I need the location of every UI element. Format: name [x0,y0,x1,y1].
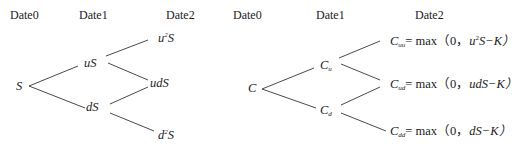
edge-s-us [29,66,78,86]
header-date1: Date1 [316,9,345,21]
header-date0: Date0 [10,9,39,21]
node-s: S [16,80,22,93]
node-cdd: Cdd= max（0，dS−K） [390,125,512,139]
node-uds: udS [150,77,169,90]
node-us: uS [84,57,97,70]
node-cud: Cud= max（0，udS−K） [390,78,518,92]
edge-cu-cuu [339,41,380,58]
node-cd: Cd [320,104,332,118]
edge-cu-cud [341,64,380,80]
edge-c-cd [262,89,316,108]
node-c: C [248,82,256,95]
node-cu: Cu [320,59,332,73]
edge-ds-uds [110,87,148,104]
header-date2: Date2 [415,9,444,21]
header-date2: Date2 [166,9,195,21]
node-cuu: Cuu= max（0，u2S−K） [390,35,515,49]
header-date0: Date0 [233,9,262,21]
node-uus: u2S [158,32,174,45]
edge-ds-dds [110,113,154,131]
edge-s-ds [29,86,85,108]
edge-us-uus [106,40,148,56]
node-ds: dS [86,101,99,114]
header-date1: Date1 [79,9,108,21]
node-dds: d2S [158,129,174,142]
edge-us-uds [108,63,148,80]
edge-c-cu [262,68,314,89]
edge-cd-cud [341,87,380,105]
edge-cd-cdd [341,113,386,131]
